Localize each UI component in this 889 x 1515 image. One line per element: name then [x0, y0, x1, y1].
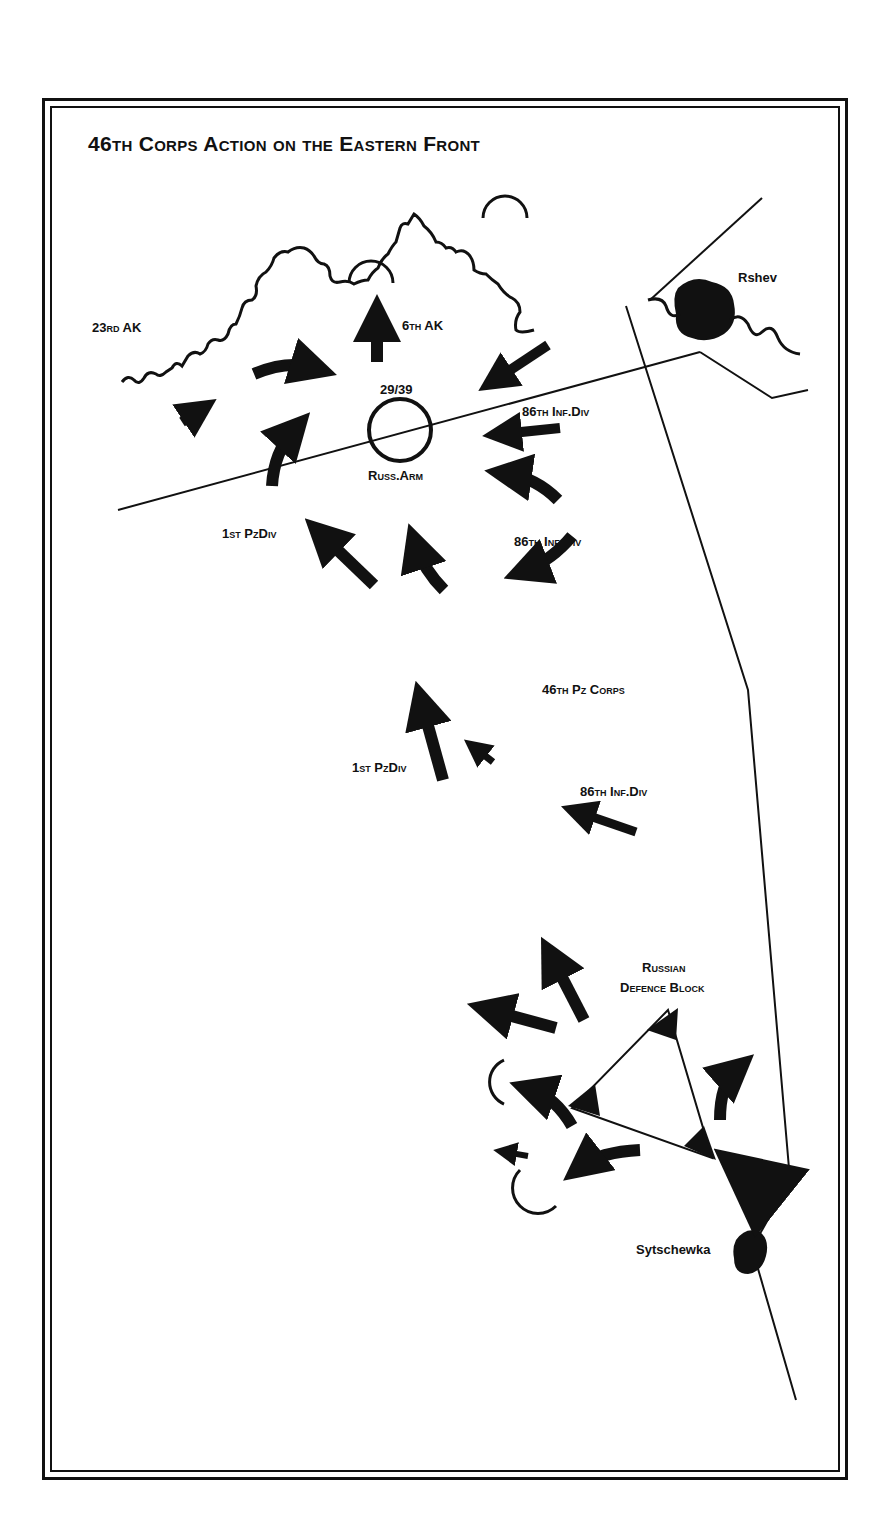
russian-army-circle	[369, 399, 431, 461]
label-86th-inf-div-3: 86th Inf.Div	[580, 784, 647, 799]
arrow-curved-block-northwest	[532, 1090, 572, 1126]
arrow-small-northeast	[182, 410, 200, 422]
label-sytschewka: Sytschewka	[636, 1242, 710, 1257]
arrow-curved-north-2	[416, 546, 444, 590]
arrow-curved-86th-northwest	[508, 474, 558, 500]
arrow-86th-inf-west	[502, 428, 560, 434]
arrow-86th-inf-west-2	[578, 812, 636, 832]
arrow-block-north	[552, 958, 584, 1020]
label-1st-pzdiv-1: 1st PzDiv	[222, 526, 276, 541]
encirclement-arc-sw-2	[513, 1170, 556, 1213]
arrow-curved-block-north-east	[720, 1070, 736, 1120]
label-defence-block-line1: Russian	[642, 960, 685, 975]
arrow-block-west	[490, 1010, 556, 1028]
label-russ-arm-number: 29/39	[380, 382, 413, 397]
arrow-curved-east	[254, 365, 314, 374]
arrow-small-west	[505, 1152, 528, 1156]
label-86th-inf-div-2: 86th Inf.Div	[514, 534, 581, 549]
encirclement-arc-north	[349, 261, 393, 283]
arrow-86th-inf-southwest-1	[495, 345, 548, 380]
label-defence-block-line2: Defence Block	[620, 980, 704, 995]
label-russ-arm: Russ.Arm	[368, 468, 423, 483]
arrow-1st-pz-northwest	[322, 535, 374, 585]
label-1st-pzdiv-2: 1st PzDiv	[352, 760, 406, 775]
encirclement-arc-sw-1	[490, 1060, 504, 1104]
label-46th-pz-corps: 46th Pz Corps	[542, 682, 625, 697]
railway-rshev-sytschewka	[626, 306, 796, 1400]
label-23rd-ak: 23rd AK	[92, 320, 141, 335]
front-line-diagonal	[118, 352, 700, 510]
arrow-small-northwest	[475, 748, 493, 762]
defence-block-corner-southeast	[684, 1126, 716, 1160]
arrow-curved-1st-pz-north	[272, 430, 294, 486]
label-6th-ak: 6th AK	[402, 318, 443, 333]
rshev-town-marker	[674, 279, 734, 340]
sytschewka-town-marker	[733, 1230, 767, 1274]
river-front-line	[122, 214, 534, 383]
map-canvas	[0, 0, 889, 1515]
label-86th-inf-div-1: 86th Inf.Div	[522, 404, 589, 419]
label-rshev: Rshev	[738, 270, 777, 285]
encirclement-arc-northeast	[483, 196, 527, 218]
defence-block-triangle	[572, 1010, 712, 1158]
arrow-curved-block-west	[582, 1150, 640, 1166]
arrow-sytschewka-northwest	[748, 1176, 778, 1200]
defence-block-corner-west	[568, 1084, 600, 1116]
arrow-1st-pz-north	[422, 704, 443, 780]
road-east-branch	[700, 352, 808, 398]
defence-block-corner-north	[647, 1008, 678, 1040]
